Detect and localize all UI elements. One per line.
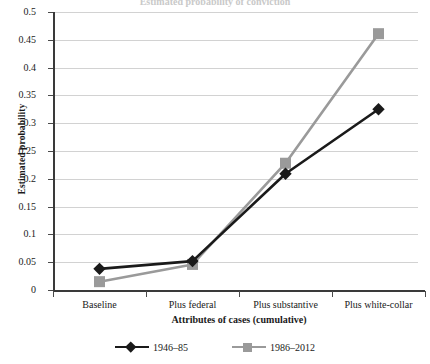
y-axis-line: [53, 12, 55, 291]
gridline: [53, 12, 418, 13]
legend-label: 1946–85: [153, 342, 188, 353]
y-tick-label: 0.15: [0, 202, 36, 212]
legend-label: 1986–2012: [270, 342, 315, 353]
x-tick-mark: [53, 291, 54, 297]
gridline: [53, 151, 418, 152]
x-tick-mark: [239, 291, 240, 297]
legend-entry-1986–2012[interactable]: 1986–2012: [232, 341, 315, 353]
y-tick-label: 0.5: [0, 7, 36, 17]
legend-entry-1946–85[interactable]: 1946–85: [115, 341, 188, 353]
legend-swatch: [115, 341, 149, 353]
gridline: [53, 68, 418, 69]
x-axis-title: Attributes of cases (cumulative): [53, 314, 425, 325]
gridline: [53, 95, 418, 96]
y-tick-label: 0.3: [0, 118, 36, 128]
y-tick-label: 0.4: [0, 63, 36, 73]
y-tick-label: 0: [0, 285, 36, 295]
y-tick-label: 0.1: [0, 229, 36, 239]
x-tick-label-0: Baseline: [82, 299, 116, 311]
gridline: [53, 179, 418, 180]
gridline: [53, 207, 418, 208]
plot-area: 0.50.450.40.350.30.250.20.150.10.050: [53, 12, 418, 290]
chart-legend: 1946–851986–2012: [0, 341, 430, 353]
legend-swatch: [232, 341, 266, 353]
gridline: [53, 234, 418, 235]
y-tick-label: 0.2: [0, 174, 36, 184]
y-tick-label: 0.35: [0, 90, 36, 100]
y-tick-label: 0.45: [0, 35, 36, 45]
clipped-chart-title: Estimated probability of conviction: [0, 0, 430, 9]
y-tick-label: 0.05: [0, 257, 36, 267]
x-tick-mark: [425, 291, 426, 297]
y-tick-label: 0.25: [0, 146, 36, 156]
legend-marker-diamond: [125, 342, 136, 353]
chart-figure: Estimated probability of conviction Esti…: [0, 0, 430, 364]
chart-title-text: Estimated probability of conviction: [0, 0, 430, 7]
gridline: [53, 262, 418, 263]
x-tick-label-1: Plus federal: [169, 299, 217, 311]
x-tick-mark: [146, 291, 147, 297]
x-tick-label-3: Plus white-collar: [344, 299, 412, 311]
x-tick-mark: [332, 291, 333, 297]
x-tick-label-2: Plus substantive: [253, 299, 318, 311]
gridline: [53, 40, 418, 41]
legend-marker-square: [243, 343, 252, 352]
gridline: [53, 123, 418, 124]
